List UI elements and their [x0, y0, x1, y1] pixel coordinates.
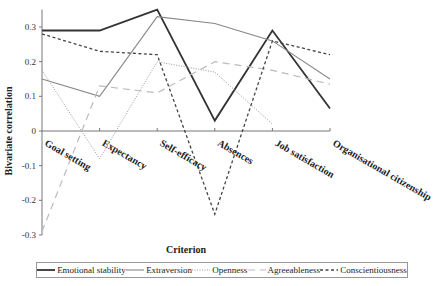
- x-axis-title: Criterion: [166, 244, 206, 255]
- legend-swatch: [248, 267, 266, 273]
- legend-label: Agreeableness: [268, 265, 320, 275]
- legend-label: Conscientiousness: [340, 265, 407, 275]
- legend-swatch: [37, 267, 55, 273]
- legend-label: Extraversion: [146, 265, 192, 275]
- line-chart: 0.30.20.10-0.1-0.2-0.3 Goal settingExpec…: [0, 0, 443, 262]
- series-conscientiousness: [42, 34, 330, 214]
- y-tick-label: -0.2: [22, 195, 36, 205]
- y-tick-label: 0: [32, 126, 37, 136]
- legend-item: Agreeableness: [248, 265, 320, 275]
- y-axis-title: Bivariate correlation: [3, 86, 14, 175]
- series-lines: [42, 10, 330, 232]
- y-tick-label: 0.3: [25, 22, 37, 32]
- series-openness: [42, 62, 272, 159]
- legend-swatch: [192, 267, 210, 273]
- legend: Emotional stabilityExtraversionOpennessA…: [36, 262, 408, 278]
- legend-item: Openness: [192, 265, 247, 275]
- category-label: Absences: [216, 137, 256, 166]
- legend-swatch: [126, 267, 144, 273]
- y-tick-label: -0.3: [22, 230, 37, 240]
- legend-item: Extraversion: [126, 265, 192, 275]
- y-tick-label: 0.1: [25, 91, 36, 101]
- legend-label: Openness: [212, 265, 247, 275]
- category-label: Expectancy: [101, 137, 149, 171]
- category-label: Self-efficacy: [158, 137, 209, 173]
- category-label: Goal setting: [43, 137, 93, 172]
- legend-label: Emotional stability: [57, 265, 126, 275]
- category-label: Organisational citizenship: [331, 137, 434, 203]
- series-extraversion: [42, 17, 330, 97]
- category-label: Job satisfaction: [273, 137, 336, 180]
- category-labels: Goal settingExpectancySelf-efficacyAbsen…: [43, 137, 434, 203]
- legend-swatch: [320, 267, 338, 273]
- legend-item: Conscientiousness: [320, 265, 407, 275]
- y-tick-label: -0.1: [22, 161, 36, 171]
- legend-item: Emotional stability: [37, 265, 126, 275]
- series-emotional-stability: [42, 10, 330, 121]
- y-tick-label: 0.2: [25, 57, 36, 67]
